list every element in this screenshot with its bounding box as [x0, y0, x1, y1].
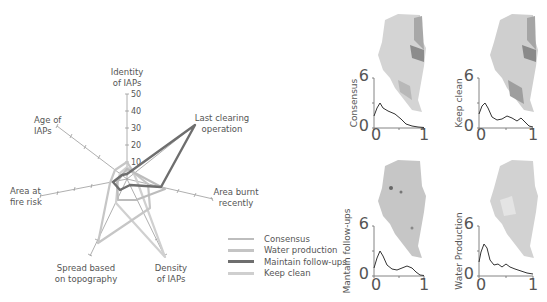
panel-keep-clean: 6 0 0 1 Keep clean — [454, 14, 538, 144]
svg-text:6: 6 — [359, 214, 369, 233]
panel-consensus: 6 0 0 1 Consensus — [349, 14, 429, 144]
legend-item-keep-clean: Keep clean — [228, 268, 347, 280]
svg-text:1: 1 — [528, 275, 538, 294]
tick-50: 50 — [131, 90, 141, 99]
svg-text:IAPs: IAPs — [34, 126, 52, 136]
svg-text:on topography: on topography — [55, 274, 117, 284]
svg-text:0: 0 — [476, 125, 486, 144]
panel-maintain-follow-ups: 6 0 0 1 Mantain follow-ups — [342, 160, 429, 294]
axis-label-identity: Identity — [111, 67, 144, 77]
panel-ylabel-keep-clean: Keep clean — [454, 78, 464, 127]
axis-label-area-burnt: Area burnt — [213, 187, 259, 197]
legend: Consensus Water production Maintain foll… — [228, 233, 347, 279]
svg-text:1: 1 — [528, 125, 538, 144]
legend-swatch — [228, 238, 254, 241]
svg-text:of IAPs: of IAPs — [113, 78, 142, 88]
legend-swatch — [228, 272, 254, 275]
svg-text:recently: recently — [219, 198, 254, 208]
panel-ylabel-consensus: Consensus — [349, 78, 359, 127]
tick-20: 20 — [131, 141, 141, 150]
svg-text:0: 0 — [359, 264, 369, 283]
legend-item-consensus: Consensus — [228, 233, 347, 245]
svg-text:6: 6 — [464, 66, 474, 85]
series-keep-clean — [116, 167, 165, 257]
axis-label-fire-risk: Area at — [10, 186, 41, 196]
svg-text:0: 0 — [476, 275, 486, 294]
radar-axes — [40, 94, 213, 257]
panel-water-production: 6 0 0 1 Water Production — [454, 160, 538, 294]
legend-swatch — [228, 249, 254, 252]
axis-label-density: Density — [155, 263, 187, 273]
svg-text:6: 6 — [464, 214, 474, 233]
tick-40: 40 — [131, 107, 141, 116]
svg-text:0: 0 — [371, 275, 381, 294]
axis-label-age: Age of — [34, 115, 62, 125]
svg-text:1: 1 — [419, 125, 429, 144]
svg-text:1: 1 — [419, 275, 429, 294]
tick-30: 30 — [131, 124, 141, 133]
svg-text:6: 6 — [359, 66, 369, 85]
legend-item-water-production: Water production — [228, 245, 347, 257]
svg-text:0: 0 — [464, 264, 474, 283]
svg-text:fire risk: fire risk — [10, 197, 42, 207]
svg-text:0: 0 — [359, 116, 369, 135]
axis-label-spread: Spread based — [57, 263, 115, 273]
svg-text:0: 0 — [464, 116, 474, 135]
legend-swatch — [228, 260, 254, 263]
svg-text:operation: operation — [202, 124, 243, 134]
axis-label-last-clearing: Last clearing — [195, 113, 250, 123]
panel-ylabel-water: Water Production — [454, 212, 464, 289]
svg-text:of IAPs: of IAPs — [157, 274, 186, 284]
legend-item-maintain-follow-ups: Maintain follow-ups — [228, 256, 347, 268]
svg-text:0: 0 — [371, 125, 381, 144]
